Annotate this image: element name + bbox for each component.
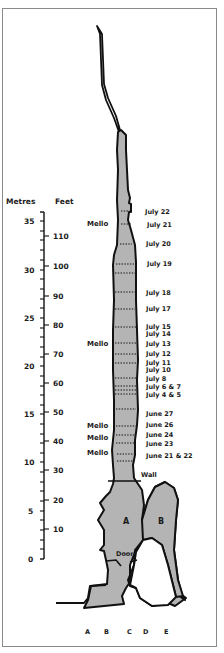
date-label: July 12: [145, 350, 171, 358]
feet-tick-label: 80: [53, 321, 63, 330]
column-label: D: [143, 628, 149, 636]
metres-tick-label: 35: [24, 217, 34, 226]
mello-labels: Mello Mello Mello Mello Mello: [87, 220, 109, 457]
date-labels: July 22 July 21 July 20 July 19 July 18 …: [144, 208, 193, 460]
door-label: Door: [116, 550, 134, 558]
date-label: July 19: [146, 260, 172, 268]
mello-label: Mello: [87, 434, 109, 442]
metres-tick-label: 15: [24, 410, 34, 419]
date-label: July 13: [145, 340, 171, 348]
date-label: June 23: [145, 440, 173, 448]
date-label: July 18: [145, 289, 171, 297]
metres-tick-label: 0: [28, 555, 33, 564]
metres-tick-label: 25: [24, 314, 34, 323]
date-label: July 6 & 7: [145, 383, 181, 391]
feet-tick-label: 90: [53, 292, 63, 301]
feet-tick-label: 50: [53, 408, 63, 417]
date-label: July 14: [145, 330, 171, 338]
date-label: July 10: [145, 366, 171, 374]
metres-axis-title: Metres: [6, 197, 36, 206]
scale-axis: [40, 212, 49, 559]
metres-tick-label: 5: [28, 507, 33, 516]
feet-tick-label: 10: [53, 525, 63, 534]
column-label: C: [127, 628, 132, 636]
mello-label: Mello: [87, 340, 109, 348]
metres-tick-labels: 35 30 25 20 15 10 5 0: [24, 217, 34, 564]
date-label: July 8: [145, 375, 167, 383]
feet-tick-label: 30: [53, 466, 63, 475]
date-label: July 20: [145, 240, 171, 248]
date-label: June 27: [145, 410, 173, 418]
feet-axis-title: Feet: [55, 197, 74, 206]
date-label: June 26: [145, 421, 174, 429]
column-labels: A B C D E: [85, 628, 168, 636]
column-label: B: [104, 628, 109, 636]
date-label: June 21 & 22: [145, 452, 193, 460]
date-label: June 24: [145, 431, 174, 439]
mello-label: Mello: [87, 220, 109, 228]
feet-tick-label: 70: [53, 350, 63, 359]
feet-tick-labels: 110 100 90 80 70 60 50 40 30 20 10: [53, 232, 69, 534]
feet-tick-label: 60: [53, 379, 63, 388]
mello-label: Mello: [87, 449, 109, 457]
metres-tick-label: 10: [24, 458, 34, 467]
feet-tick-label: 20: [53, 496, 63, 505]
date-label: July 17: [145, 305, 171, 313]
date-label: July 22: [144, 208, 170, 216]
wall-label: Wall: [141, 471, 157, 479]
upper-shaft: [97, 26, 121, 133]
date-label: July 4 & 5: [145, 391, 181, 399]
metres-tick-label: 20: [24, 362, 34, 371]
metres-tick-label: 30: [24, 266, 34, 275]
feet-tick-label: 110: [53, 232, 69, 241]
chamber-b-label: B: [158, 517, 164, 526]
chamber-a-label: A: [123, 517, 130, 526]
date-label: July 21: [146, 221, 172, 229]
cave-diagram: Metres Feet: [0, 0, 224, 653]
column-label: A: [85, 628, 90, 636]
mello-label: Mello: [87, 422, 109, 430]
feet-tick-label: 100: [53, 262, 69, 271]
column-label: E: [164, 628, 168, 636]
feet-tick-label: 40: [53, 437, 63, 446]
